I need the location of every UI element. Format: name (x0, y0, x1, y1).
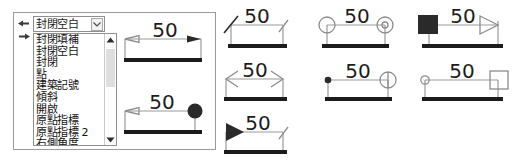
chevron-down-icon[interactable] (91, 18, 103, 31)
sample-open-arrow: 50 (220, 59, 312, 109)
small-filled-dot (325, 77, 332, 84)
sample-label: 50 (344, 4, 369, 28)
arrow-right-icon (17, 30, 31, 43)
sample-label: 50 (245, 111, 270, 135)
sample-architectural: 50 (412, 4, 518, 56)
filled-square (418, 15, 438, 34)
arrowhead-settings-panel: 封閉空白 封閉填補 封閉空白 封閉 點 建築記號 傾斜 開啟 原點指標 原點指標… (13, 12, 216, 150)
preview-closed-blank: 50 (121, 25, 209, 67)
sample-label: 50 (244, 4, 269, 28)
scroll-down-arrow-icon[interactable] (105, 134, 116, 145)
sample-filled-triangle: 50 (220, 112, 312, 162)
sample-label: 50 (242, 58, 267, 82)
scrollbar-thumb[interactable] (106, 49, 115, 87)
list-item[interactable]: 右側角度 (34, 138, 104, 146)
preview-dot: 50 (121, 97, 209, 139)
arrowhead-style-combo[interactable]: 封閉空白 (33, 16, 105, 32)
filled-triangle (226, 123, 244, 141)
list-item[interactable]: 原點指標 (34, 115, 104, 127)
arrowhead-style-list[interactable]: 封閉填補 封閉空白 封閉 點 建築記號 傾斜 開啟 原點指標 原點指標 2 右側… (33, 33, 117, 146)
sample-label: 50 (449, 59, 474, 83)
preview-label: 50 (149, 90, 174, 114)
sample-oblique: 50 (220, 4, 312, 56)
filled-dot (188, 104, 203, 119)
sample-origin-indicator: 50 (313, 4, 413, 56)
gutter-icons (17, 17, 31, 43)
list-scrollbar[interactable] (104, 34, 116, 145)
list-item[interactable]: 傾斜 (34, 92, 104, 104)
scroll-up-arrow-icon[interactable] (105, 34, 116, 45)
sample-label: 50 (345, 59, 370, 83)
arrow-left-icon (17, 17, 31, 30)
sample-label: 50 (450, 4, 475, 28)
combo-selected-value: 封閉空白 (34, 19, 79, 30)
preview-label: 50 (152, 18, 177, 42)
dimension-style-samples: 50 50 50 (220, 0, 521, 164)
list-item[interactable]: 封閉填補 (34, 34, 104, 46)
filled-arrow-head (187, 36, 201, 43)
list-items: 封閉填補 封閉空白 封閉 點 建築記號 傾斜 開啟 原點指標 原點指標 2 右側… (34, 34, 104, 146)
sample-open-circle-box: 50 (412, 59, 518, 109)
sample-dot-small: 50 (316, 59, 416, 109)
